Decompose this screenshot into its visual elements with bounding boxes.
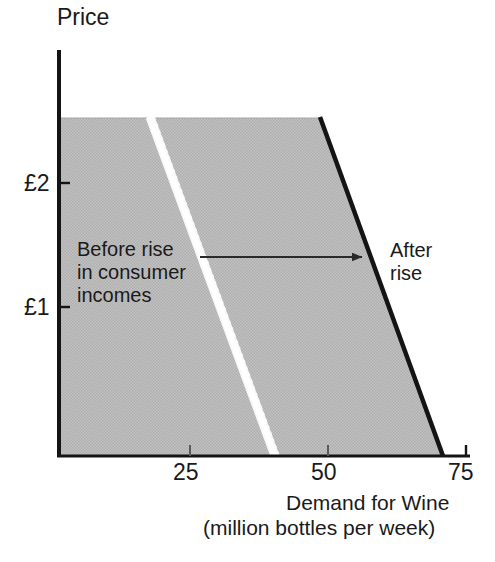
before-rise-annotation: Before rise in consumer incomes xyxy=(77,238,186,308)
x-tick-label-75: 75 xyxy=(448,459,474,486)
y-tick-label-1: £1 xyxy=(24,294,50,321)
y-tick-label-2: £2 xyxy=(24,170,50,197)
after-rise-annotation: After rise xyxy=(390,239,432,285)
economics-demand-chart: Price £2 £1 25 50 75 Demand for Wine (mi… xyxy=(0,0,495,562)
x-tick-label-25: 25 xyxy=(173,459,199,486)
x-axis-title: Demand for Wine xyxy=(286,491,449,515)
x-tick-label-50: 50 xyxy=(311,459,337,486)
x-axis-subtitle: (million bottles per week) xyxy=(203,516,435,540)
y-axis-title: Price xyxy=(57,4,109,31)
